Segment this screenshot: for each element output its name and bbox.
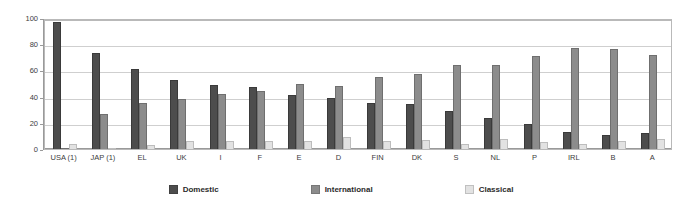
x-tick-label: IRL	[554, 154, 593, 162]
bar-classical	[422, 140, 430, 149]
plot-frame	[44, 19, 672, 150]
bar-classical	[461, 144, 469, 149]
bar-group	[359, 20, 398, 149]
bar-group	[398, 20, 437, 149]
x-tick-label: A	[633, 154, 672, 162]
bar-group	[320, 20, 359, 149]
x-tick-label: UK	[162, 154, 201, 162]
bar-classical	[383, 141, 391, 149]
legend-item-classical[interactable]: Classical	[465, 185, 514, 194]
x-tick-label: EL	[123, 154, 162, 162]
bar-classical	[500, 139, 508, 149]
x-tick-label: E	[280, 154, 319, 162]
bar-group	[241, 20, 280, 149]
bar-international	[532, 56, 540, 149]
y-tick-label: 100	[14, 15, 38, 23]
x-tick-label: DK	[397, 154, 436, 162]
x-tick-label: NL	[476, 154, 515, 162]
bar-domestic	[602, 135, 610, 149]
y-tick-mark	[40, 71, 43, 72]
y-tick-label: 80	[14, 41, 38, 49]
legend-swatch-classical-icon	[465, 185, 474, 194]
y-tick-mark	[40, 19, 43, 20]
bar-international	[218, 94, 226, 149]
y-axis-line	[43, 19, 44, 150]
bar-international	[375, 77, 383, 149]
x-tick-label: I	[201, 154, 240, 162]
bar-domestic	[445, 111, 453, 149]
bar-group	[477, 20, 516, 149]
bar-international	[257, 91, 265, 149]
y-tick-mark	[40, 45, 43, 46]
y-tick-mark	[40, 150, 43, 151]
legend-label: Classical	[479, 185, 514, 194]
x-tick-label: S	[437, 154, 476, 162]
legend-item-international[interactable]: International	[311, 185, 373, 194]
bar-group	[438, 20, 477, 149]
bar-group	[84, 20, 123, 149]
bar-classical	[343, 137, 351, 149]
bar-international	[296, 84, 304, 150]
bar-international	[453, 65, 461, 149]
bar-international	[610, 49, 618, 149]
bar-domestic	[288, 95, 296, 149]
legend-swatch-domestic-icon	[169, 185, 178, 194]
bar-domestic	[406, 104, 414, 149]
x-tick-label: B	[594, 154, 633, 162]
bar-group	[202, 20, 241, 149]
bar-domestic	[210, 85, 218, 149]
y-tick-label: 40	[14, 94, 38, 102]
bar-domestic	[53, 22, 61, 149]
bar-classical	[108, 148, 116, 149]
bar-group	[555, 20, 594, 149]
bar-international	[492, 65, 500, 149]
legend-swatch-international-icon	[311, 185, 320, 194]
bar-group	[634, 20, 673, 149]
bar-group	[516, 20, 555, 149]
y-tick-mark	[40, 124, 43, 125]
y-tick-label: 20	[14, 120, 38, 128]
y-tick-label: 0	[14, 146, 38, 154]
legend-label: International	[325, 185, 373, 194]
bar-international	[571, 48, 579, 149]
bar-domestic	[367, 103, 375, 149]
bar-domestic	[92, 53, 100, 149]
bar-group	[163, 20, 202, 149]
bar-international	[139, 103, 147, 149]
bar-classical	[657, 139, 665, 149]
bar-international	[649, 55, 657, 149]
bar-classical	[579, 144, 587, 149]
bar-international	[414, 74, 422, 149]
bar-classical	[540, 142, 548, 149]
bar-classical	[618, 141, 626, 149]
bar-domestic	[484, 118, 492, 149]
bar-international	[178, 99, 186, 149]
legend-item-domestic[interactable]: Domestic	[169, 185, 219, 194]
chart-container: 020406080100 USA (1)JAP (1)ELUKIFEDFINDK…	[0, 0, 682, 211]
bar-classical	[186, 141, 194, 149]
y-tick-label: 60	[14, 67, 38, 75]
bar-domestic	[327, 98, 335, 149]
bar-classical	[304, 141, 312, 149]
bar-international	[61, 148, 69, 149]
x-tick-label: F	[240, 154, 279, 162]
bar-domestic	[249, 87, 257, 149]
x-tick-label: P	[515, 154, 554, 162]
x-tick-label: JAP (1)	[83, 154, 122, 162]
y-tick-mark	[40, 98, 43, 99]
bar-domestic	[524, 124, 532, 149]
bar-group	[45, 20, 84, 149]
bar-classical	[69, 144, 77, 149]
x-tick-label: D	[319, 154, 358, 162]
x-tick-label: FIN	[358, 154, 397, 162]
bar-domestic	[641, 133, 649, 149]
bar-classical	[265, 141, 273, 149]
bar-international	[335, 86, 343, 149]
bar-domestic	[170, 80, 178, 149]
bar-group	[124, 20, 163, 149]
plot-area	[45, 20, 671, 149]
chart-legend: DomesticInternationalClassical	[0, 185, 682, 194]
legend-label: Domestic	[183, 185, 219, 194]
bar-group	[595, 20, 634, 149]
bar-group	[281, 20, 320, 149]
